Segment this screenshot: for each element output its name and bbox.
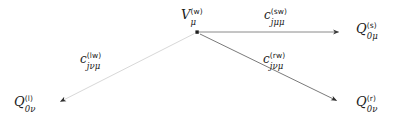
node-label-s: Q(s)0μ <box>356 22 387 35</box>
edge-rw <box>200 34 337 101</box>
edge-superscript-sw: (sw) <box>271 8 287 16</box>
edge-label-sw: c(sw)jμμ <box>264 9 291 21</box>
vertex-dot-w <box>195 30 198 33</box>
node-base-vertex-w: V <box>181 7 190 22</box>
node-superscript-l: (l) <box>25 95 33 103</box>
edge-superscript-rw: (rw) <box>270 52 285 60</box>
node-base-l: Q <box>14 94 25 109</box>
node-subscript-s: 0μ <box>367 32 378 41</box>
node-label-l: Q(l)0ν <box>14 95 45 108</box>
edge-subscript-lw: jνμ <box>87 62 101 71</box>
edge-subscript-rw: jνμ <box>270 62 284 71</box>
edge-base-lw: c <box>80 52 87 66</box>
node-superscript-r: (r) <box>367 95 376 103</box>
edge-label-rw: c(rw)jνμ <box>263 53 290 65</box>
node-subscript-l: 0ν <box>25 105 36 114</box>
diagram-canvas: V(w)μ Q(s)0μ Q(l)0ν Q(r)0ν c(sw)jμμ c(lw… <box>0 0 397 125</box>
edge-superscript-lw: (lw) <box>87 52 101 60</box>
node-subscript-vertex-w: μ <box>190 18 196 27</box>
node-subscript-r: 0ν <box>367 105 378 114</box>
edge-lw <box>61 34 195 102</box>
node-base-r: Q <box>356 94 367 109</box>
node-superscript-vertex-w: (w) <box>190 8 202 16</box>
node-base-s: Q <box>356 21 367 36</box>
node-label-vertex-w: V(w)μ <box>181 8 207 21</box>
edge-base-sw: c <box>264 8 271 22</box>
edge-base-rw: c <box>263 52 270 66</box>
edge-subscript-sw: jμμ <box>271 18 285 27</box>
node-superscript-s: (s) <box>367 22 377 30</box>
edge-label-lw: c(lw)jνμ <box>80 53 107 65</box>
node-label-r: Q(r)0ν <box>356 95 387 108</box>
